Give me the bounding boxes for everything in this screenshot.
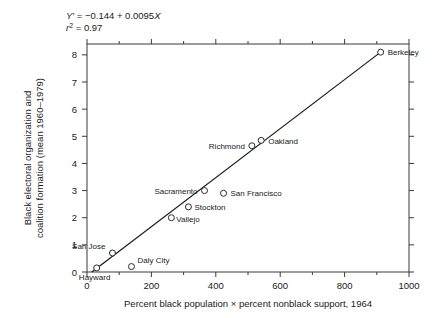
regression-fit-line [92, 52, 381, 272]
r-squared-text: r2 = 0.97 [66, 22, 102, 34]
equation-text: Y′ = −0.144 + 0.0095X [66, 10, 161, 21]
y-axis-title-line2: coalition formation (mean 1960–1979) [34, 78, 45, 238]
data-point: Oakland [258, 137, 298, 146]
data-point: Stockton [185, 203, 225, 212]
data-point: San Jose [72, 242, 115, 256]
point-label-berkeley: Berkeley [388, 48, 419, 57]
equation-annotation: Y′ = −0.144 + 0.0095Xr2 = 0.97 [66, 10, 161, 33]
data-point: Vallejo [168, 215, 200, 224]
point-label-richmond: Richmond [209, 142, 245, 151]
point-label-sacramento: Sacramento [154, 187, 198, 196]
chart-figure: 02004006008001000 012345678 HaywardDaly … [0, 0, 444, 318]
x-tick-label: 1000 [398, 280, 419, 291]
data-point: Sacramento [154, 187, 207, 196]
point-marker-san-jose [109, 250, 115, 256]
point-marker-berkeley [378, 49, 384, 55]
point-marker-richmond [249, 143, 255, 149]
y-tick-label: 7 [72, 77, 77, 88]
data-point: Hayward [79, 265, 111, 282]
point-marker-stockton [185, 204, 191, 210]
point-label-vallejo: Vallejo [176, 215, 200, 224]
y-tick-label: 2 [72, 212, 77, 223]
y-axis-ticks: 012345678 [72, 49, 414, 277]
y-tick-label: 4 [72, 158, 77, 169]
point-marker-daly-city [128, 264, 134, 270]
data-point: Daly City [128, 256, 169, 270]
x-tick-label: 200 [143, 280, 159, 291]
x-axis-ticks: 02004006008001000 [84, 39, 419, 291]
y-tick-label: 3 [72, 185, 77, 196]
x-tick-label: 400 [208, 280, 224, 291]
x-tick-label: 800 [337, 280, 353, 291]
point-marker-san-francisco [221, 190, 227, 196]
data-point: Berkeley [378, 48, 419, 57]
x-tick-label: 600 [272, 280, 288, 291]
y-tick-label: 0 [72, 267, 77, 278]
point-label-hayward: Hayward [79, 273, 111, 282]
plot-frame [87, 44, 409, 272]
point-label-daly-city: Daly City [137, 256, 169, 265]
point-label-oakland: Oakland [268, 137, 298, 146]
point-label-san-francisco: San Francisco [231, 189, 283, 198]
point-marker-oakland [258, 137, 264, 143]
y-tick-label: 5 [72, 131, 77, 142]
y-tick-label: 8 [72, 49, 77, 60]
point-marker-hayward [94, 265, 100, 271]
point-label-san-jose: San Jose [72, 242, 106, 251]
y-tick-label: 6 [72, 104, 77, 115]
data-point: San Francisco [221, 189, 283, 198]
regression-line [92, 52, 381, 272]
y-axis-title-line1: Black electoral organization and [22, 91, 33, 226]
point-marker-vallejo [168, 215, 174, 221]
scatter-plot: 02004006008001000 012345678 HaywardDaly … [0, 0, 444, 318]
point-marker-sacramento [202, 188, 208, 194]
point-label-stockton: Stockton [194, 203, 225, 212]
x-axis-title: Percent black population × percent nonbl… [124, 298, 372, 309]
plot-border [87, 44, 409, 272]
data-point: Richmond [209, 142, 255, 151]
